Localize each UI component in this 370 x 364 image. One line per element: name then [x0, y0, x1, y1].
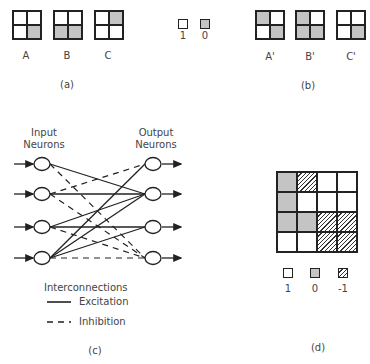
output-neurons: [145, 158, 161, 265]
legend-excitation: Excitation: [79, 296, 159, 307]
cell: [277, 212, 297, 232]
input-neurons: [34, 158, 50, 265]
swatch-minus-one: [338, 268, 348, 278]
cell: [317, 232, 337, 252]
cell: [277, 192, 297, 212]
cell: [317, 172, 337, 192]
output-arrows: [162, 164, 181, 258]
swatch-zero: [310, 268, 320, 278]
key-minus-one-label: -1: [335, 283, 351, 294]
cell: [337, 232, 357, 252]
cell: [337, 212, 357, 232]
legend-title: Interconnections: [44, 282, 144, 293]
input-arrows: [14, 164, 33, 258]
cell: [337, 172, 357, 192]
cell: [297, 232, 317, 252]
cell: [317, 192, 337, 212]
key-zero-label: 0: [309, 283, 321, 294]
cell: [277, 232, 297, 252]
cell: [297, 172, 317, 192]
caption-d: (d): [303, 342, 333, 353]
cell: [297, 212, 317, 232]
weight-matrix: [276, 171, 358, 253]
swatch-one: [283, 268, 293, 278]
key-one-label: 1: [282, 283, 294, 294]
cell: [317, 212, 337, 232]
cell: [277, 172, 297, 192]
cell: [337, 192, 357, 212]
caption-c: (c): [80, 345, 110, 356]
cell: [297, 192, 317, 212]
legend-inhibition: Inhibition: [79, 316, 159, 327]
